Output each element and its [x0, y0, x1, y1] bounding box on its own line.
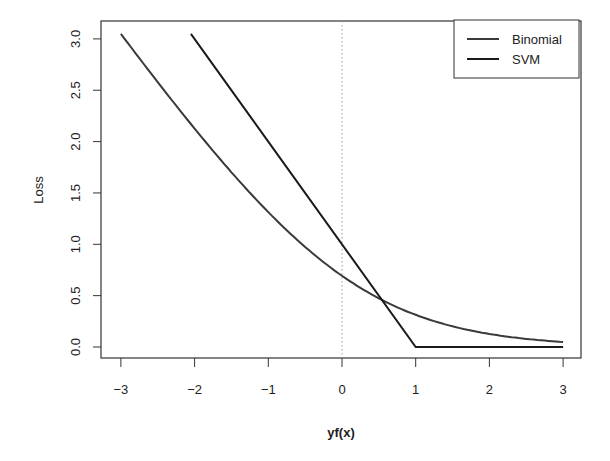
- y-tick-label: 1.0: [68, 235, 83, 253]
- x-tick-label: 2: [486, 382, 493, 397]
- binomial-line: [121, 34, 563, 342]
- loss-chart: 0.00.51.01.52.02.53.0 −3−2−10123 yf(x) L…: [0, 0, 610, 461]
- x-tick-label: 3: [559, 382, 566, 397]
- x-tick-label: −1: [261, 382, 276, 397]
- y-tick-label: 0.5: [68, 287, 83, 305]
- x-axis-title: yf(x): [327, 425, 354, 440]
- x-tick-label: 0: [338, 382, 345, 397]
- legend: Binomial SVM: [454, 20, 579, 78]
- x-tick-label: 1: [412, 382, 419, 397]
- x-tick-label: −2: [187, 382, 202, 397]
- y-tick-label: 2.5: [68, 81, 83, 99]
- legend-svm-label: SVM: [512, 52, 540, 67]
- legend-binomial-label: Binomial: [512, 32, 562, 47]
- legend-box: [454, 20, 579, 78]
- y-tick-label: 1.5: [68, 184, 83, 202]
- x-axis: −3−2−10123: [113, 358, 566, 397]
- y-axis: 0.00.51.01.52.02.53.0: [68, 30, 101, 356]
- x-tick-label: −3: [113, 382, 128, 397]
- y-tick-label: 3.0: [68, 30, 83, 48]
- y-axis-title: Loss: [31, 176, 46, 204]
- y-tick-label: 2.0: [68, 133, 83, 151]
- y-tick-label: 0.0: [68, 338, 83, 356]
